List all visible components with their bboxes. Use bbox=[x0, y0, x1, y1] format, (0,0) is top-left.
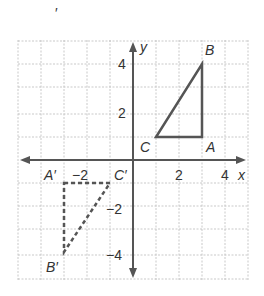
label-b: B bbox=[205, 42, 214, 58]
label-a-prime: A′ bbox=[43, 167, 57, 183]
x-tick-2: 2 bbox=[175, 167, 183, 183]
label-c-prime: C′ bbox=[114, 167, 128, 183]
y-tick-neg2: −2 bbox=[106, 201, 122, 217]
y-axis-label: y bbox=[139, 39, 148, 55]
triangle-abc bbox=[156, 64, 202, 137]
stray-mark: ′ bbox=[55, 5, 58, 21]
axes bbox=[20, 42, 246, 278]
y-tick-4: 4 bbox=[118, 56, 126, 72]
x-tick-neg2: −2 bbox=[72, 167, 88, 183]
y-tick-2: 2 bbox=[118, 105, 126, 121]
coordinate-plane: y x 4 2 −2 −4 −2 2 4 B C A A′ C′ B′ ′ bbox=[0, 0, 264, 296]
label-b-prime: B′ bbox=[46, 259, 59, 275]
triangle-image bbox=[64, 183, 110, 252]
label-c: C bbox=[140, 139, 151, 155]
y-tick-neg4: −4 bbox=[106, 247, 122, 263]
label-a: A bbox=[205, 139, 215, 155]
x-axis-label: x bbox=[237, 167, 246, 183]
x-tick-4: 4 bbox=[221, 167, 229, 183]
